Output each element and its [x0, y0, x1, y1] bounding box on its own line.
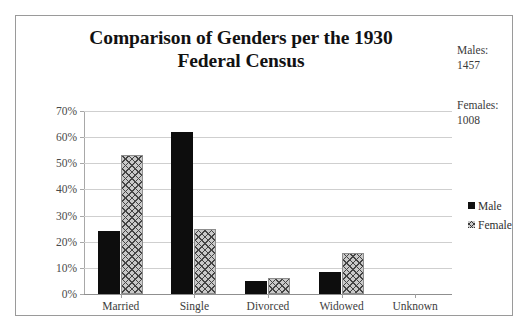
annotation-females: Females: 1008 [457, 98, 499, 127]
bar-female-married [121, 155, 143, 294]
chart-title: Comparison of Genders per the 1930 Feder… [46, 26, 436, 72]
chart-category-group: Unknown [378, 111, 452, 294]
chart-category-group: Single [158, 111, 232, 294]
chart-title-line-1: Comparison of Genders per the 1930 [46, 26, 436, 49]
y-axis-label: 20% [56, 236, 77, 248]
y-axis-label: 10% [56, 262, 77, 274]
legend-item-male: Male [468, 196, 512, 215]
bar-male-widowed [319, 272, 341, 294]
x-axis-tick [268, 294, 269, 298]
chart-legend: Male Female [468, 196, 512, 234]
y-axis-label: 70% [56, 105, 77, 117]
y-axis-label: 30% [56, 210, 77, 222]
y-axis-label: 0% [62, 288, 77, 300]
x-axis-label: Single [158, 300, 232, 312]
y-axis-label: 40% [56, 183, 77, 195]
annotation-males: Males: 1457 [457, 43, 488, 72]
y-axis-label: 50% [56, 157, 77, 169]
x-axis-tick [121, 294, 122, 298]
x-axis-label: Divorced [231, 300, 305, 312]
chart-title-line-2: Federal Census [46, 49, 436, 72]
x-axis-tick [342, 294, 343, 298]
legend-item-female: Female [468, 215, 512, 234]
legend-label-male: Male [478, 200, 502, 212]
y-axis-label: 60% [56, 131, 77, 143]
x-axis-label: Widowed [305, 300, 379, 312]
x-axis-tick [194, 294, 195, 298]
screenshot-root: Comparison of Genders per the 1930 Feder… [0, 0, 529, 331]
bar-female-divorced [268, 278, 290, 294]
legend-swatch-male-icon [468, 202, 475, 209]
x-axis-label: Unknown [378, 300, 452, 312]
x-axis-label: Married [84, 300, 158, 312]
bar-male-married [98, 231, 120, 294]
bar-male-divorced [245, 281, 267, 294]
bar-male-single [171, 132, 193, 294]
x-axis-tick [415, 294, 416, 298]
legend-label-female: Female [478, 219, 512, 231]
chart-frame: Comparison of Genders per the 1930 Feder… [15, 15, 513, 316]
bar-female-widowed [342, 253, 364, 294]
chart-category-group: Married [84, 111, 158, 294]
legend-swatch-female-icon [468, 221, 475, 228]
chart-category-group: Widowed [305, 111, 379, 294]
bar-female-single [194, 229, 216, 294]
chart-category-group: Divorced [231, 111, 305, 294]
plot-area: 0%10%20%30%40%50%60%70%MarriedSingleDivo… [84, 111, 452, 294]
y-axis-tick [80, 294, 84, 295]
